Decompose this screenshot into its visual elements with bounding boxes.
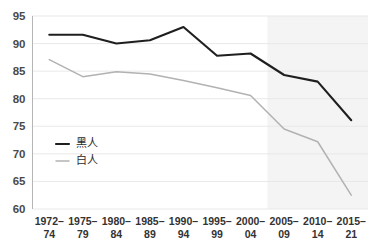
x-tick-label: 94 bbox=[178, 228, 190, 240]
x-tick-label: 2005– bbox=[270, 215, 299, 227]
line-chart: 6065707580859095 1972–741975–791980–8419… bbox=[0, 0, 377, 248]
chart-canvas: 6065707580859095 1972–741975–791980–8419… bbox=[0, 0, 377, 248]
x-tick-label: 74 bbox=[43, 228, 55, 240]
x-tick-label: 99 bbox=[211, 228, 223, 240]
legend-label: 黑人 bbox=[76, 137, 98, 149]
x-tick-label: 1975– bbox=[68, 215, 97, 227]
x-tick-label: 04 bbox=[245, 228, 257, 240]
x-tick-label: 09 bbox=[278, 228, 290, 240]
highlight-band bbox=[267, 16, 368, 209]
x-tick-label: 79 bbox=[77, 228, 89, 240]
y-tick-label: 85 bbox=[13, 65, 26, 77]
x-tick-label: 2015– bbox=[337, 215, 366, 227]
y-tick-label: 80 bbox=[13, 93, 26, 105]
x-tick-label: 14 bbox=[312, 228, 324, 240]
x-tick-label: 89 bbox=[144, 228, 156, 240]
y-tick-label: 75 bbox=[13, 120, 26, 132]
x-tick-label: 2010– bbox=[303, 215, 332, 227]
legend-label: 白人 bbox=[76, 153, 98, 166]
recent-period-shading bbox=[267, 16, 368, 209]
x-tick-label: 84 bbox=[111, 228, 123, 240]
y-tick-label: 70 bbox=[13, 148, 26, 160]
x-tick-label: 1972– bbox=[35, 215, 64, 227]
x-tick-label: 21 bbox=[345, 228, 357, 240]
x-tick-label: 1990– bbox=[169, 215, 198, 227]
x-tick-label: 1995– bbox=[202, 215, 231, 227]
y-tick-label: 65 bbox=[13, 175, 26, 187]
y-tick-label: 60 bbox=[13, 203, 26, 215]
y-tick-label: 95 bbox=[13, 10, 26, 22]
y-tick-label: 90 bbox=[13, 38, 26, 50]
x-tick-label: 2000– bbox=[236, 215, 265, 227]
x-tick-label: 1980– bbox=[102, 215, 131, 227]
x-tick-label: 1985– bbox=[135, 215, 164, 227]
